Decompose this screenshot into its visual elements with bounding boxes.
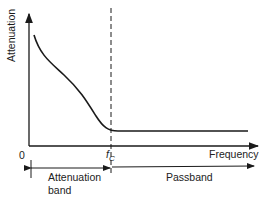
- x-axis-label: Frequency: [209, 148, 259, 160]
- passband-arrow: [112, 166, 254, 167]
- attenuation-band-label-2: band: [48, 184, 71, 196]
- attenuation-curve: [34, 35, 248, 131]
- y-axis-label: Attenuation: [5, 9, 17, 62]
- cutoff-subscript: C: [109, 154, 115, 163]
- passband-label: Passband: [166, 171, 213, 183]
- attenuation-band-label-1: Attenuation: [48, 171, 101, 183]
- origin-label: 0: [19, 149, 25, 161]
- cutoff-label: fC: [106, 148, 115, 163]
- attenuation-diagram: [0, 0, 272, 204]
